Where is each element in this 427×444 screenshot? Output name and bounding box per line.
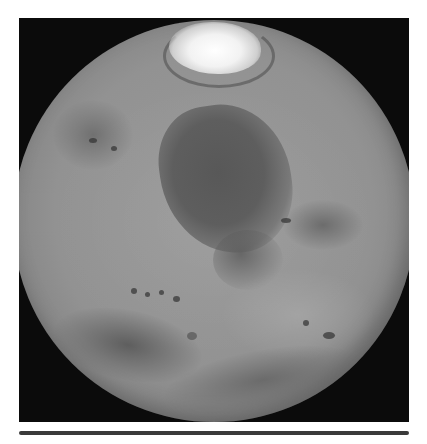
horizontal-rule <box>19 431 409 435</box>
crater <box>131 288 137 294</box>
crater <box>323 332 335 339</box>
crater <box>173 296 180 302</box>
crater <box>303 320 309 326</box>
mars-globe <box>19 20 409 422</box>
crater <box>145 292 150 297</box>
crater <box>187 332 197 340</box>
crater <box>281 218 291 223</box>
dark-region-east <box>283 200 363 250</box>
crater <box>111 146 117 151</box>
crater <box>159 290 164 295</box>
crater <box>89 138 97 143</box>
image-frame <box>19 18 409 422</box>
dark-region-northwest <box>53 100 133 170</box>
